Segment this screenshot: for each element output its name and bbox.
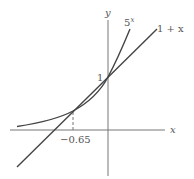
line-1-plus-x — [17, 29, 157, 167]
line-1-plus-x-label: 1 + x — [157, 23, 184, 34]
x-axis-label: x — [170, 124, 176, 135]
x-tick-neg065-label: −0.65 — [60, 134, 91, 145]
chart: y x 5x 1 + x 1 −0.65 — [0, 0, 194, 179]
y-tick-1-label: 1 — [97, 72, 103, 83]
y-axis-label: y — [104, 7, 111, 18]
curve-5x-label: 5x — [124, 16, 134, 28]
